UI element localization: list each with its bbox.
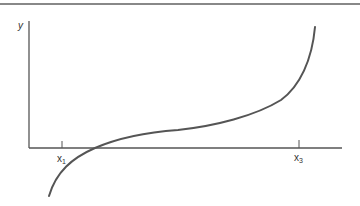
x3-tick-label: x3: [294, 152, 303, 164]
chart-canvas: y x1 x3: [0, 0, 360, 206]
y-axis-label: y: [17, 20, 24, 31]
x1-tick-label: x1: [57, 153, 66, 165]
function-curve: [49, 27, 315, 196]
